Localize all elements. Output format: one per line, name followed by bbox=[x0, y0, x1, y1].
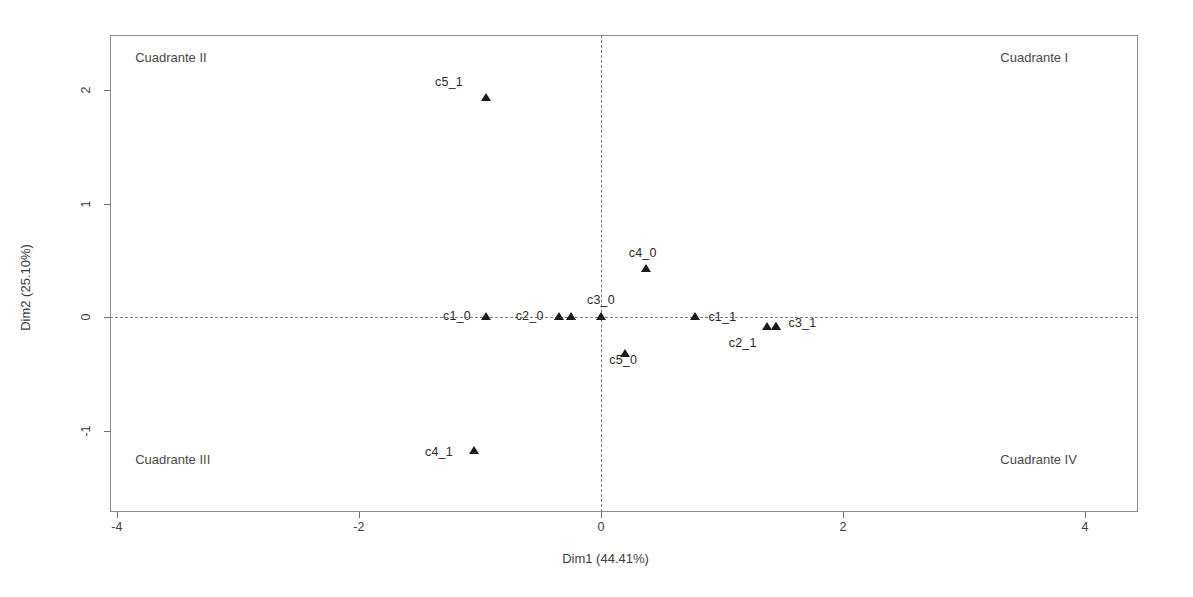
x-axis-title: Dim1 (44.41%) bbox=[0, 551, 1193, 566]
data-point-label: c1_0 bbox=[443, 309, 471, 323]
x-tick-label: 2 bbox=[839, 520, 846, 534]
data-point-marker bbox=[469, 446, 479, 454]
data-point-marker bbox=[481, 93, 491, 101]
vertical-reference-line bbox=[601, 35, 602, 512]
y-tick-mark bbox=[104, 431, 110, 432]
y-tick-label: 0 bbox=[79, 307, 93, 327]
data-point-marker bbox=[566, 312, 576, 320]
data-point-label: c2_0 bbox=[516, 309, 544, 323]
y-tick-mark bbox=[104, 317, 110, 318]
data-point-marker bbox=[596, 312, 606, 320]
x-tick-mark bbox=[117, 512, 118, 518]
data-point-label: c4_0 bbox=[629, 246, 657, 260]
plot-frame bbox=[110, 35, 1138, 512]
y-axis-title: Dim2 (25.10%) bbox=[18, 208, 33, 368]
x-tick-label: -4 bbox=[111, 520, 123, 534]
data-point-label: c3_0 bbox=[587, 293, 615, 307]
y-tick-mark bbox=[104, 90, 110, 91]
x-tick-label: 0 bbox=[597, 520, 604, 534]
data-point-marker bbox=[641, 264, 651, 272]
data-point-marker bbox=[554, 312, 564, 320]
x-tick-label: -2 bbox=[353, 520, 365, 534]
x-tick-mark bbox=[359, 512, 360, 518]
data-point-label: c3_1 bbox=[788, 316, 816, 330]
x-axis-title-text: Dim1 (44.41%) bbox=[562, 551, 649, 566]
data-point-marker bbox=[481, 312, 491, 320]
data-point-label: c5_0 bbox=[609, 353, 637, 367]
quadrant-4-label: Cuadrante IV bbox=[1000, 452, 1077, 467]
data-point-marker bbox=[771, 322, 781, 330]
horizontal-reference-line bbox=[110, 317, 1138, 318]
data-point-marker bbox=[762, 322, 772, 330]
data-point-label: c5_1 bbox=[435, 75, 463, 89]
x-tick-label: 4 bbox=[1081, 520, 1088, 534]
x-tick-mark bbox=[601, 512, 602, 518]
pca-biplot: -4-2024210-1 Cuadrante IICuadrante ICuad… bbox=[0, 0, 1193, 597]
data-point-label: c1_1 bbox=[708, 310, 736, 324]
quadrant-2-label: Cuadrante II bbox=[135, 50, 207, 65]
x-tick-mark bbox=[1085, 512, 1086, 518]
data-point-marker bbox=[690, 312, 700, 320]
quadrant-3-label: Cuadrante III bbox=[135, 452, 210, 467]
y-tick-mark bbox=[104, 204, 110, 205]
x-tick-mark bbox=[843, 512, 844, 518]
data-point-label: c4_1 bbox=[425, 445, 453, 459]
y-tick-label: 2 bbox=[79, 80, 93, 100]
quadrant-1-label: Cuadrante I bbox=[1000, 50, 1068, 65]
y-tick-label: 1 bbox=[79, 194, 93, 214]
data-point-label: c2_1 bbox=[729, 336, 757, 350]
y-tick-label: -1 bbox=[79, 421, 93, 441]
